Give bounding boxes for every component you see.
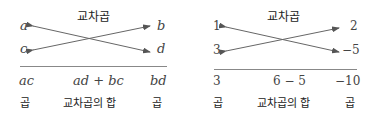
label-product-left: 곱: [213, 94, 223, 110]
cross-multiplication-general-panel: 교차곱 a c b d ac ad + bc bd 곱 교차곱의 합 곱: [0, 0, 188, 114]
product-right: bd: [150, 73, 167, 88]
product-left: 3: [213, 74, 221, 88]
product-left: ac: [19, 73, 34, 88]
label-product-right: 곱: [152, 94, 162, 110]
label-cross-sum: 교차곱의 합: [63, 94, 117, 110]
product-right: −10: [335, 74, 360, 88]
label-product-right: 곱: [345, 94, 355, 110]
divider-line: [20, 66, 167, 67]
label-cross-sum: 교차곱의 합: [257, 94, 311, 110]
divider-line: [214, 69, 357, 70]
cross-multiplication-example-panel: 교차곱 1 3 2 −5 3 6 − 5 −10 곱 교차곱의 합 곱: [187, 0, 375, 114]
sum-of-cross-products: ad + bc: [73, 73, 124, 88]
label-product-left: 곱: [20, 94, 30, 110]
sum-of-cross-products: 6 − 5: [273, 74, 306, 88]
